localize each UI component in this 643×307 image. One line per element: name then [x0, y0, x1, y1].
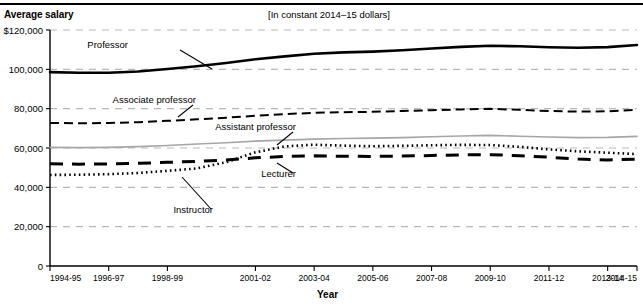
y-tick-label: 40,000 — [14, 182, 43, 193]
y-tick-label: $120,000 — [3, 25, 43, 36]
x-tick-label: 1996-97 — [93, 273, 124, 283]
x-tick-labels-group: 1994-951996-971998-992001-022003-042005-… — [50, 273, 637, 283]
series-label-lecturer: Lecturer — [261, 168, 296, 179]
y-tick-label: 80,000 — [14, 103, 43, 114]
x-tick-label: 2007-08 — [416, 273, 447, 283]
x-axis-title: Year — [317, 289, 338, 300]
series-line-professor — [50, 45, 637, 73]
x-tick-label: 2014-15 — [606, 273, 637, 283]
series-line-lecturer — [50, 155, 637, 164]
y-tick-label: 20,000 — [14, 221, 43, 232]
x-tick-label: 1998-99 — [152, 273, 183, 283]
series-label-associate-professor: Associate professor — [113, 94, 196, 105]
x-tick-label: 2001-02 — [240, 273, 271, 283]
x-tick-label: 2009-10 — [475, 273, 506, 283]
data-series-group — [50, 45, 637, 175]
x-tick-label: 2003-04 — [299, 273, 330, 283]
gridlines-group — [50, 30, 637, 227]
series-label-professor: Professor — [87, 39, 128, 50]
x-tick-label: 1994-95 — [50, 273, 81, 283]
chart-subtitle: [In constant 2014–15 dollars] — [268, 9, 390, 20]
y-tick-label: 0 — [38, 261, 43, 272]
x-tick-label: 2005-06 — [357, 273, 388, 283]
y-axis-title: Average salary — [4, 9, 73, 20]
series-label-assistant-professor: Assistant professor — [215, 121, 296, 132]
series-line-associate-professor — [50, 109, 637, 123]
series-line-assistant-professor — [50, 135, 637, 147]
series-line-instructor — [50, 145, 637, 175]
leader-line-associate-professor — [178, 105, 193, 117]
chart-figure: Average salary [In constant 2014–15 doll… — [0, 0, 643, 307]
series-label-instructor: Instructor — [173, 204, 213, 215]
y-tick-labels-group: $120,000100,00080,00060,00040,00020,0000 — [3, 25, 43, 272]
y-tick-label: 100,000 — [9, 64, 43, 75]
leader-line-assistant-professor — [277, 132, 293, 145]
x-tick-label: 2011-12 — [534, 273, 565, 283]
line-chart-plot: $120,000100,00080,00060,00040,00020,0000… — [0, 0, 643, 307]
top-rule-divider — [0, 3, 643, 5]
x-tick-marks-group — [50, 266, 637, 271]
y-tick-label: 60,000 — [14, 143, 43, 154]
